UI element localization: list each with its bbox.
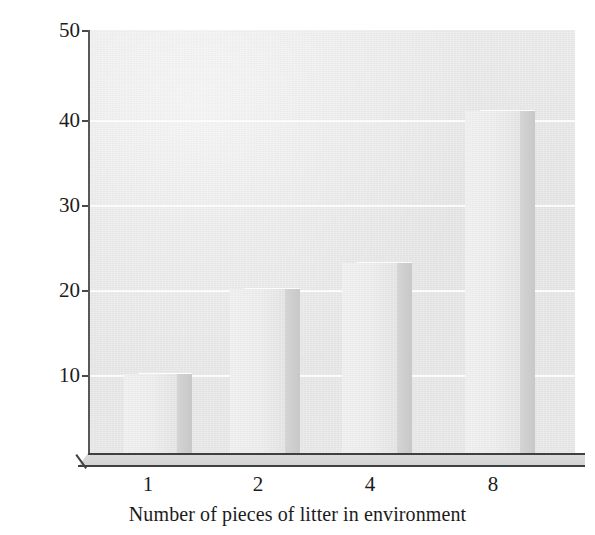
y-tick-label-30: 30	[34, 193, 80, 218]
bar-front-face-1	[124, 374, 177, 455]
floor-left-edge	[78, 453, 90, 469]
x-axis-floor	[78, 453, 585, 467]
bar-category-2[interactable]	[230, 289, 285, 455]
plot-area	[88, 30, 575, 455]
y-tick-label-50: 50	[34, 18, 80, 43]
bar-side-face-4	[520, 111, 535, 455]
x-axis-title: Number of pieces of litter in environmen…	[0, 503, 595, 526]
y-tick-label-40: 40	[34, 108, 80, 133]
x-axis-line	[78, 465, 585, 467]
bar-side-face-2	[285, 289, 300, 455]
bar-category-1[interactable]	[124, 374, 177, 455]
bar-front-face-4	[465, 111, 520, 455]
y-axis-tick-group: 50 40 30 20 10	[20, 0, 80, 535]
y-tick-label-10: 10	[34, 363, 80, 388]
bar-category-4[interactable]	[342, 263, 397, 455]
bar-texture-1	[124, 374, 177, 455]
y-tick-label-20: 20	[34, 278, 80, 303]
x-tick-label-4: 4	[340, 472, 400, 497]
floor-back-edge	[88, 453, 585, 455]
x-tick-label-2: 2	[228, 472, 288, 497]
bar-side-face-1	[177, 374, 192, 455]
bar-texture-2	[230, 289, 285, 455]
bar-category-8[interactable]	[465, 111, 520, 455]
bar-texture-3	[342, 263, 397, 455]
bar-texture-4	[465, 111, 520, 455]
bar-front-face-2	[230, 289, 285, 455]
x-tick-label-8: 8	[463, 472, 523, 497]
bar-side-face-3	[397, 263, 412, 455]
x-tick-label-1: 1	[118, 472, 178, 497]
bar-chart-figure: Percentage of persons who littered 50 40…	[0, 0, 595, 535]
bar-front-face-3	[342, 263, 397, 455]
